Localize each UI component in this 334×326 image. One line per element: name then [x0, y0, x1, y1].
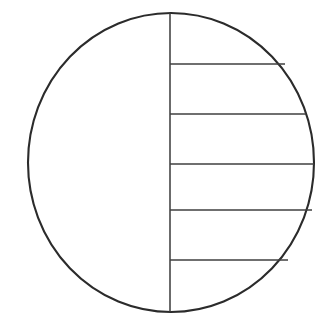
diagram-background [0, 0, 334, 326]
circle-chord-diagram [0, 0, 334, 326]
